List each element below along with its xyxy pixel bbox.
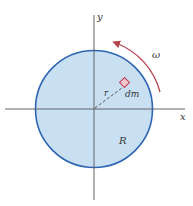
disk-radius-label: R <box>118 135 127 146</box>
x-axis-label: x <box>180 111 186 122</box>
mass-element-label: dm <box>125 89 139 99</box>
omega-label: ω <box>152 49 160 60</box>
y-axis-label: y <box>96 11 103 22</box>
diagram-canvas: y x ω r dm R <box>0 0 193 206</box>
